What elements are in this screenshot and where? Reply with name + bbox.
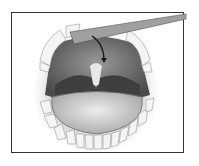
mouth-illustration: [0, 0, 199, 166]
